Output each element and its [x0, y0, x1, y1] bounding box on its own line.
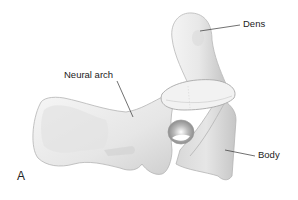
label-neural-arch: Neural arch — [64, 70, 113, 80]
panel-letter: A — [17, 170, 25, 182]
transverse-foramen-shape — [168, 120, 194, 144]
label-body: Body — [258, 150, 280, 160]
neural-arch-shape — [33, 94, 176, 174]
dens-shape — [172, 13, 226, 88]
vertebra-illustration — [0, 0, 298, 200]
label-dens: Dens — [243, 19, 265, 29]
